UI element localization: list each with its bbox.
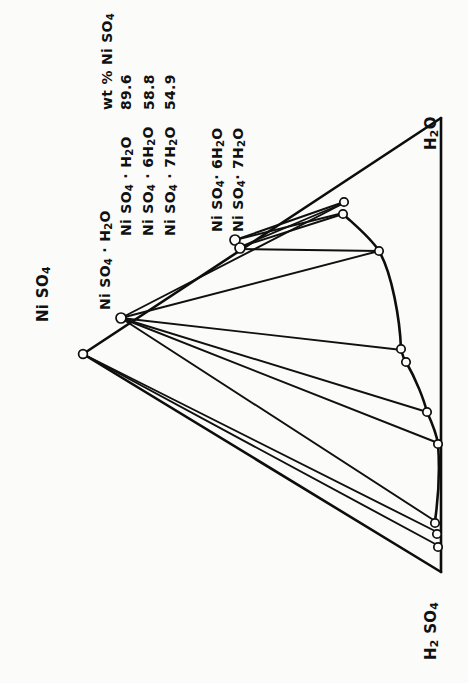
tie-line [240,214,343,247]
node-curve-point [340,198,348,206]
node-niso4-vertex [79,350,88,359]
tie-lines-niso4-vertex [83,354,439,546]
tie-line [83,354,439,546]
vertex-label-h2so4: H2 SO4 [422,602,441,660]
node-heptahydrate [235,243,245,253]
node-monohydrate [116,313,126,323]
node-curve-point [402,358,410,366]
node-curve-point [339,210,347,218]
node-curve-point [397,345,405,353]
legend-phase: Ni SO4 · 6H2O [140,126,157,236]
ternary-phase-diagram: Ni SO4 H2O H2 SO4 wt % Ni SO4 89.6 58.8 … [0,0,468,683]
triangle-frame [83,118,441,572]
edge-niso4-h2so4 [83,354,441,572]
tie-line [235,202,344,240]
annotation-heptahydrate: Ni SO4· 7H2O [230,127,247,232]
vertex-label-niso4: Ni SO4 [34,266,53,322]
edge-niso4-h2o [83,118,441,354]
node-curve-point [434,440,442,448]
tie-line [121,251,379,318]
annotation-monohydrate: Ni SO4 · H2O [97,210,114,310]
vertex-label-h2o: H2O [422,116,441,150]
annotation-hexahydrate: Ni SO4· 6H2O [209,127,226,232]
node-curve-point [423,408,431,416]
legend-value: 89.6 [118,74,134,110]
solubility-curve [343,214,439,521]
tie-line [240,203,344,247]
legend-header: wt % Ni SO4 [99,13,116,110]
legend-phase: Ni SO4 · H2O [118,136,135,236]
node-saturation-point [433,530,441,538]
node-curve-point [375,247,383,255]
legend-phase: Ni SO4 · 7H2O [162,126,179,236]
node-markers [79,198,443,551]
tie-line [121,318,427,412]
legend-value: 54.9 [162,74,178,110]
tie-line [239,249,379,251]
node-saturation-point [431,519,439,527]
legend-value: 58.8 [141,74,157,110]
node-saturation-point [434,543,442,551]
legend-block: wt % Ni SO4 89.6 58.8 54.9 Ni SO4 · H2O … [99,13,179,236]
tie-line [83,354,437,532]
